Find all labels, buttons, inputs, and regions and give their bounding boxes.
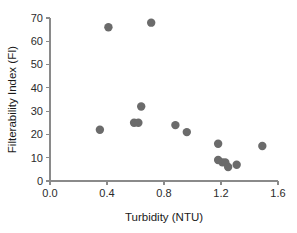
data-point <box>258 142 266 150</box>
y-tick-label: 70 <box>31 12 43 24</box>
y-tick-label: 50 <box>31 58 43 70</box>
y-axis-title: Filterability Index (FI) <box>6 46 18 154</box>
x-tick-label: 0.0 <box>42 187 57 199</box>
data-point <box>147 18 155 26</box>
y-tick-label: 20 <box>31 128 43 140</box>
y-tick-label: 0 <box>37 175 43 187</box>
y-axis-ticks: 010203040506070 <box>31 12 50 187</box>
data-point <box>104 23 112 31</box>
data-point <box>232 161 240 169</box>
data-point <box>214 140 222 148</box>
x-tick-label: 0.8 <box>156 187 171 199</box>
data-point <box>137 102 145 110</box>
x-tick-label: 1.6 <box>270 187 285 199</box>
x-tick-label: 0.4 <box>99 187 114 199</box>
data-point <box>171 121 179 129</box>
data-point <box>134 119 142 127</box>
x-axis-title: Turbidity (NTU) <box>125 211 203 223</box>
x-tick-label: 1.2 <box>213 187 228 199</box>
y-tick-label: 10 <box>31 152 43 164</box>
chart-canvas: 010203040506070 0.00.40.81.21.6 Turbidit… <box>0 0 297 233</box>
data-point <box>224 163 232 171</box>
x-axis-ticks: 0.00.40.81.21.6 <box>42 181 285 199</box>
scatter-plot-figure: 010203040506070 0.00.40.81.21.6 Turbidit… <box>0 0 297 233</box>
data-points-group <box>96 18 267 171</box>
y-tick-label: 30 <box>31 105 43 117</box>
data-point <box>183 128 191 136</box>
y-tick-label: 60 <box>31 35 43 47</box>
y-tick-label: 40 <box>31 82 43 94</box>
data-point <box>96 126 104 134</box>
